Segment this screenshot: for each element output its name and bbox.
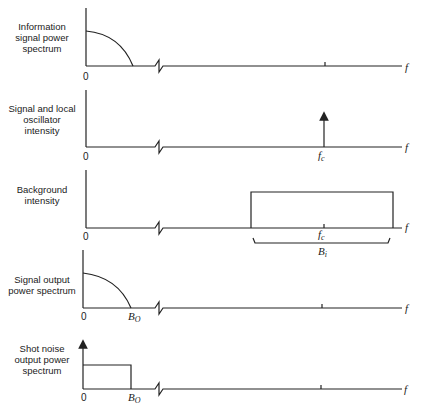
panel-2-title-line-2: oscillator xyxy=(23,114,61,125)
panel-5-title-line-2: output power xyxy=(15,354,70,365)
panel-4-origin-label: 0 xyxy=(81,311,87,322)
panel-4-f-label: f xyxy=(405,302,410,314)
panel-1-spectrum-curve xyxy=(86,31,133,66)
spectrum-diagram: Information signal power spectrum 0 f Si… xyxy=(0,0,422,414)
panel-2-f-label: f xyxy=(405,141,410,153)
panel-5-noise-rectangle xyxy=(83,365,131,389)
panel-5-f-label: f xyxy=(404,383,409,395)
panel-3-f-label: f xyxy=(405,221,410,233)
panel-1-title-line-2: signal power xyxy=(15,32,68,43)
panel-3-background-band xyxy=(251,192,393,228)
panel-5-bo-label: BO xyxy=(128,391,141,405)
panel-3-bi-label: Bi xyxy=(318,245,327,259)
panel-3-title-line-2: intensity xyxy=(25,195,60,206)
panel-3-title-line-1: Background xyxy=(17,184,68,195)
panel-1-x-axis-with-break xyxy=(86,60,402,72)
panel-1-origin-label: 0 xyxy=(83,71,89,82)
panel-4-spectrum-curve xyxy=(83,273,131,308)
panel-5-title-line-3: spectrum xyxy=(22,365,61,376)
panel-3-origin-label: 0 xyxy=(83,231,89,242)
panel-2-origin-label: 0 xyxy=(83,151,89,162)
panel-1-title-line-1: Information xyxy=(18,21,66,32)
panel-3-x-axis-with-break xyxy=(86,222,402,234)
panel-2-title-line-1: Signal and local xyxy=(8,103,75,114)
panel-5-origin-label: 0 xyxy=(81,392,87,403)
panel-4-title-line-1: Signal output xyxy=(14,274,70,285)
panel-signal-output: Signal output power spectrum 0 BO f xyxy=(8,250,410,324)
panel-2-title-line-3: intensity xyxy=(25,125,60,136)
panel-5-title-line-1: Shot noise xyxy=(20,343,65,354)
panel-1-f-label: f xyxy=(405,61,410,73)
panel-4-title-line-2: power spectrum xyxy=(8,285,76,296)
panel-information-signal: Information signal power spectrum 0 f xyxy=(15,8,410,82)
panel-shot-noise-output: Shot noise output power spectrum 0 BO f xyxy=(15,343,409,405)
panel-4-bo-label: BO xyxy=(128,310,141,324)
panel-background-intensity: Background intensity 0 fc Bi f xyxy=(17,170,410,259)
panel-1-title-line-3: spectrum xyxy=(22,43,61,54)
panel-2-fc-label: fc xyxy=(318,149,325,163)
panel-3-fc-label: fc xyxy=(318,228,325,242)
panel-signal-local-oscillator: Signal and local oscillator intensity 0 … xyxy=(8,90,410,163)
panel-2-x-axis-with-break xyxy=(86,141,402,153)
